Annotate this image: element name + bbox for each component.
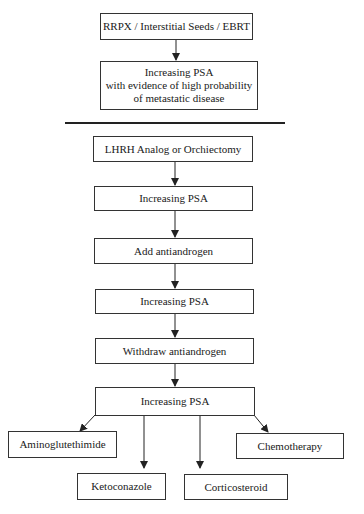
chemotherapy-box: Chemotherapy [236,433,344,459]
increasing-psa-box-2: Increasing PSA [95,289,254,314]
aminoglutethimide-label: Aminoglutethimide [19,438,105,451]
increasing-psa-box-1: Increasing PSA [94,186,253,211]
lhrh-box: LHRH Analog or Orchiectomy [93,136,253,162]
psa-metastatic-box: Increasing PSA with evidence of high pro… [100,61,258,110]
ketoconazole-label: Ketoconazole [91,480,151,493]
withdraw-antiandrogen-label: Withdraw antiandrogen [123,345,227,358]
treatment-box: RRPX / Interstitial Seeds / EBRT [100,13,253,40]
increasing-psa-box-3: Increasing PSA [95,387,255,416]
add-antiandrogen-label: Add antiandrogen [134,245,213,258]
withdraw-antiandrogen-box: Withdraw antiandrogen [95,338,254,364]
psa-metastatic-line-3: of metastatic disease [133,92,224,105]
chemotherapy-label: Chemotherapy [258,440,323,453]
psa-metastatic-line-1: Increasing PSA [145,66,214,79]
section-divider [65,122,285,124]
add-antiandrogen-box: Add antiandrogen [94,238,253,264]
aminoglutethimide-box: Aminoglutethimide [8,431,117,458]
increasing-psa-label-2: Increasing PSA [140,295,209,308]
increasing-psa-label-3: Increasing PSA [141,395,210,408]
lhrh-label: LHRH Analog or Orchiectomy [105,143,242,156]
psa-metastatic-line-2: with evidence of high probability [106,79,253,92]
corticosteroid-box: Corticosteroid [184,474,288,500]
ketoconazole-box: Ketoconazole [77,473,166,500]
treatment-label: RRPX / Interstitial Seeds / EBRT [103,20,250,33]
increasing-psa-label-1: Increasing PSA [139,192,208,205]
corticosteroid-label: Corticosteroid [205,481,268,494]
